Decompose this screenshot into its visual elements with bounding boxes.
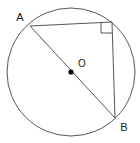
label-center-o: O bbox=[78, 58, 86, 69]
segment-chord-cb bbox=[112, 22, 115, 118]
label-point-a: A bbox=[16, 11, 24, 23]
geometry-canvas: A B O bbox=[0, 0, 140, 143]
center-point-dot bbox=[68, 69, 73, 74]
right-angle-marker-icon bbox=[101, 22, 112, 33]
segment-chord-ac bbox=[30, 22, 112, 26]
label-point-b: B bbox=[120, 121, 127, 133]
circle-geometry-diagram: A B O bbox=[0, 0, 140, 143]
